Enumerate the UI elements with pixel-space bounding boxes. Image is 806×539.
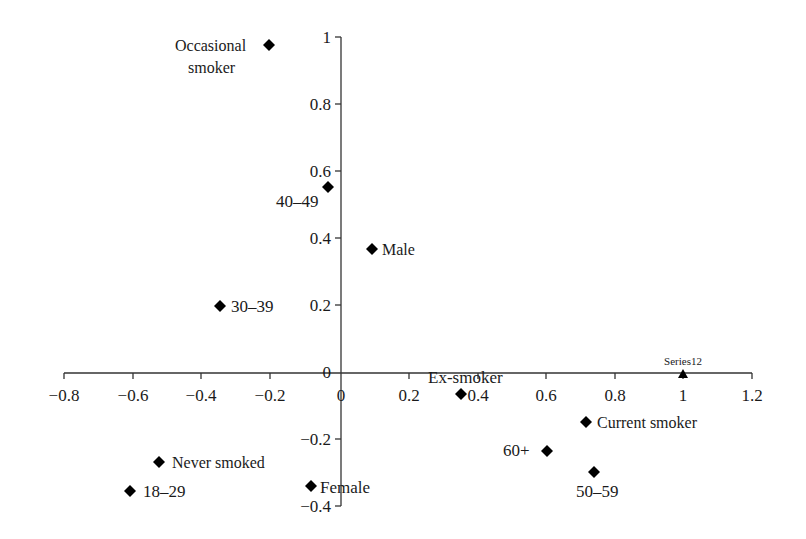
x-tick-label: 0.2 bbox=[398, 386, 419, 405]
y-axis bbox=[335, 37, 341, 506]
y-tick-label: −0.2 bbox=[300, 430, 331, 449]
label-60-plus: 60+ bbox=[503, 441, 530, 460]
diamond-marker-occasional-smoker bbox=[263, 39, 275, 51]
y-tick-label: −0.4 bbox=[300, 497, 331, 516]
y-tick-label: 0.6 bbox=[310, 162, 331, 181]
y-tick-label: 1 bbox=[323, 28, 332, 47]
y-tick-label: 0.8 bbox=[310, 95, 331, 114]
x-axis bbox=[64, 373, 752, 379]
diamond-marker-60-plus bbox=[541, 445, 553, 457]
point-labels: Occasional smoker 40–49 Male 30–39 Ex-sm… bbox=[143, 37, 702, 501]
label-never-smoked: Never smoked bbox=[172, 454, 265, 471]
label-40-49: 40–49 bbox=[276, 192, 319, 211]
label-female: Female bbox=[320, 478, 370, 497]
diamond-marker-50-59 bbox=[588, 466, 600, 478]
diamond-marker-current-smoker bbox=[580, 416, 592, 428]
label-occasional-smoker-line2: smoker bbox=[188, 59, 236, 76]
x-tick-label: 0.6 bbox=[535, 386, 556, 405]
x-tick-label: −0.2 bbox=[255, 386, 286, 405]
x-tick-labels: −0.8 −0.6 −0.4 −0.2 0 0.2 0.4 0.6 0.8 1 … bbox=[49, 386, 763, 405]
scatter-chart: −0.8 −0.6 −0.4 −0.2 0 0.2 0.4 0.6 0.8 1 … bbox=[0, 0, 806, 539]
diamond-marker-female bbox=[305, 480, 317, 492]
label-ex-smoker: Ex-smoker bbox=[428, 368, 503, 387]
x-tick-label: −0.6 bbox=[118, 386, 149, 405]
x-tick-label: 0.4 bbox=[467, 386, 489, 405]
x-tick-label: 0.8 bbox=[604, 386, 625, 405]
diamond-marker-ex-smoker bbox=[455, 388, 467, 400]
label-50-59: 50–59 bbox=[576, 482, 619, 501]
label-series12: Series12 bbox=[664, 355, 702, 367]
diamond-marker-40-49 bbox=[322, 181, 334, 193]
x-tick-label: −0.4 bbox=[186, 386, 217, 405]
diamond-marker-18-29 bbox=[124, 485, 136, 497]
x-tick-label: 1 bbox=[679, 386, 688, 405]
y-tick-label: 0.4 bbox=[310, 229, 332, 248]
label-occasional-smoker-line1: Occasional bbox=[175, 37, 247, 54]
diamond-marker-male bbox=[366, 243, 378, 255]
label-current-smoker: Current smoker bbox=[597, 414, 698, 431]
diamond-marker-never-smoked bbox=[153, 456, 165, 468]
x-tick-label: 0 bbox=[337, 386, 346, 405]
x-tick-label: −0.8 bbox=[49, 386, 80, 405]
y-tick-label: 0.2 bbox=[310, 296, 331, 315]
label-male: Male bbox=[382, 241, 415, 258]
diamond-marker-30-39 bbox=[214, 300, 226, 312]
x-tick-label: 1.2 bbox=[741, 386, 762, 405]
label-18-29: 18–29 bbox=[143, 482, 186, 501]
label-30-39: 30–39 bbox=[231, 297, 274, 316]
y-tick-label: 0 bbox=[323, 363, 332, 382]
y-tick-labels: 1 0.8 0.6 0.4 0.2 0 −0.2 −0.4 bbox=[300, 28, 331, 516]
